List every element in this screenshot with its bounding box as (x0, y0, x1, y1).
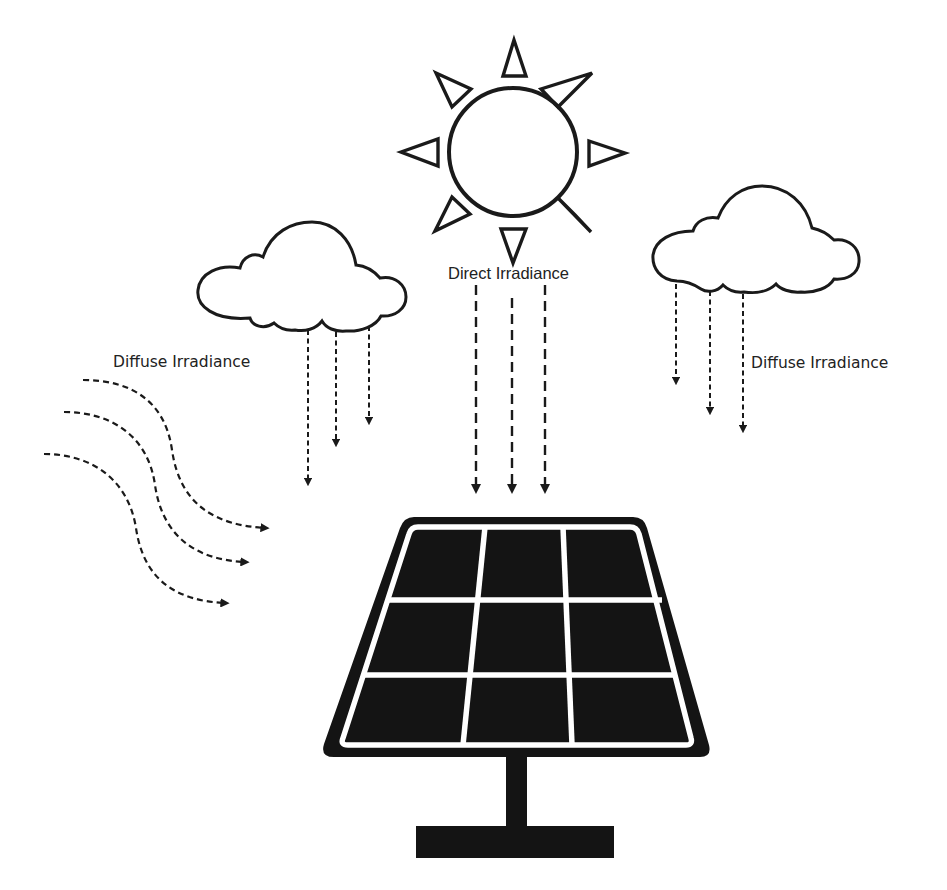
sun-ray-top-left (436, 73, 471, 107)
cloud-icon (653, 186, 859, 293)
curved-arrow (44, 454, 225, 603)
scattered-diffuse-arrows (44, 380, 265, 603)
sun-ray-right (589, 141, 625, 166)
sun-ray-top (503, 40, 526, 76)
cloud-icon (198, 222, 406, 331)
sun-ray-top-right (541, 73, 592, 107)
sun-ray-bottom-right (558, 198, 591, 232)
irradiance-diagram: Direct Irradiance Diffuse Irradiance Dif… (0, 0, 947, 890)
curved-arrow (83, 380, 265, 528)
sun-ray-bottom-left (435, 197, 470, 231)
left-cloud-diffuse-arrows (308, 326, 369, 482)
curved-arrow (64, 412, 245, 562)
panel-frame (323, 517, 709, 757)
sun-ray-bottom (501, 229, 526, 263)
panel-pole (506, 755, 527, 829)
diffuse-irradiance-label-right: Diffuse Irradiance (751, 354, 888, 372)
panel-base (416, 826, 614, 858)
sun-icon (401, 40, 625, 263)
direct-irradiance-arrows (476, 285, 545, 489)
solar-panel-icon (323, 517, 709, 858)
right-cloud-diffuse-arrows (676, 284, 743, 429)
direct-irradiance-label: Direct Irradiance (448, 264, 569, 282)
diffuse-irradiance-label-left: Diffuse Irradiance (113, 353, 250, 371)
sun-ray-left (401, 139, 438, 166)
